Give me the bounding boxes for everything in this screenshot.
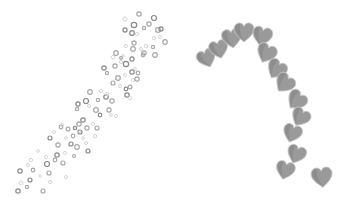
clipart-canvas [0, 0, 348, 210]
heart-icon [284, 143, 308, 166]
heart-icon [280, 122, 304, 145]
heart-trail [0, 0, 348, 210]
heart-icon [310, 166, 333, 188]
